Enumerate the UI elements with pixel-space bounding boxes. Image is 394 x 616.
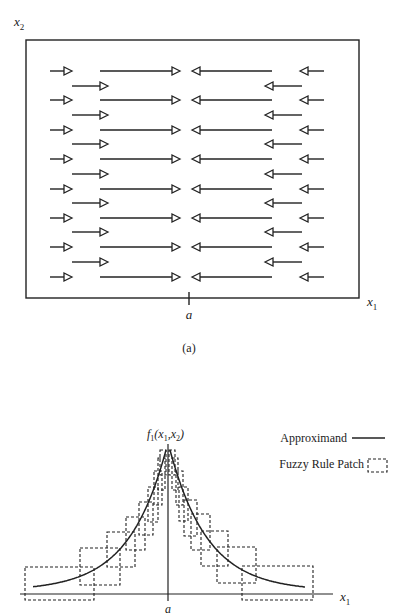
arrow-left	[265, 82, 302, 90]
arrow-left	[265, 111, 302, 119]
arrow-left	[192, 67, 272, 75]
arrow-left	[192, 126, 272, 134]
panel-b-fuzzy-approximation: f1(x1,x2) Approximand Fuzzy Rule Patch a…	[20, 427, 387, 616]
panel-b-x-axis-label: x1	[339, 589, 350, 607]
panel-a-tick-label: a	[186, 307, 193, 322]
arrow-right	[100, 96, 180, 104]
arrow-left	[265, 199, 302, 207]
panel-a-x-axis-label: x1	[366, 294, 377, 312]
arrow-right	[100, 243, 180, 251]
arrow-left	[300, 67, 324, 75]
arrow-left	[265, 170, 302, 178]
arrow-right	[72, 111, 108, 119]
arrow-right	[72, 228, 108, 236]
arrow-left	[192, 185, 272, 193]
arrow-left	[300, 214, 324, 222]
arrow-left	[300, 126, 324, 134]
arrow-right	[100, 273, 180, 281]
arrow-right	[72, 170, 108, 178]
arrow-left	[265, 228, 302, 236]
arrow-left	[300, 155, 324, 163]
arrow-left	[192, 214, 272, 222]
panel-b-tick-label: a	[165, 602, 171, 616]
arrow-left	[265, 258, 302, 266]
legend-approximand-label: Approximand	[280, 431, 347, 445]
arrow-right	[50, 126, 72, 134]
arrow-right	[50, 243, 72, 251]
arrow-right	[100, 126, 180, 134]
arrow-right	[100, 185, 180, 193]
arrow-left	[300, 96, 324, 104]
arrow-right	[50, 155, 72, 163]
panel-a-y-axis-label: x2	[13, 14, 24, 32]
panel-b-function-label: f1(x1,x2)	[147, 427, 184, 443]
arrow-left	[300, 185, 324, 193]
arrow-right	[72, 82, 108, 90]
arrow-right	[50, 214, 72, 222]
arrow-right	[72, 199, 108, 207]
arrow-left	[192, 273, 272, 281]
arrow-right	[50, 273, 72, 281]
vector-field-arrows	[50, 67, 324, 281]
arrow-right	[100, 214, 180, 222]
arrow-left	[265, 140, 302, 148]
arrow-right	[50, 96, 72, 104]
panel-a-caption: (a)	[182, 341, 195, 355]
panel-a-vector-field: x2 a x1 (a)	[13, 14, 377, 355]
arrow-right	[72, 140, 108, 148]
arrow-right	[72, 258, 108, 266]
fuzzy-rule-patch	[25, 567, 94, 600]
legend-patch-swatch	[368, 459, 387, 472]
arrow-left	[192, 96, 272, 104]
panel-a-frame	[26, 40, 359, 298]
legend: Approximand Fuzzy Rule Patch	[279, 431, 387, 472]
arrow-left	[192, 155, 272, 163]
figure: x2 a x1 (a) f1(x1,x2) Approximand Fuzzy …	[0, 0, 394, 616]
fuzzy-rule-patches	[25, 450, 313, 600]
arrow-right	[100, 67, 180, 75]
arrow-right	[50, 185, 72, 193]
arrow-right	[100, 155, 180, 163]
arrow-left	[192, 243, 272, 251]
arrow-right	[50, 67, 72, 75]
arrow-left	[300, 243, 324, 251]
legend-patch-label: Fuzzy Rule Patch	[279, 457, 364, 471]
arrow-left	[300, 273, 324, 281]
fuzzy-rule-patch	[217, 547, 256, 583]
